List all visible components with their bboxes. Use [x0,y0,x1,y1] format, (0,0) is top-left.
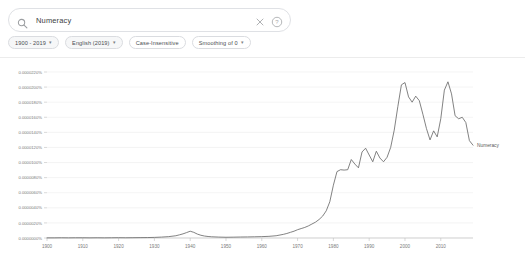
chevron-down-icon: ▾ [49,40,52,45]
smoothing-chip-label: Smoothing of 0 [199,40,238,46]
case-insensitive-chip-label: Case-Insensitive [136,40,179,46]
y-tick-label: 0.0000080% [18,175,42,180]
date-range-chip-label: 1900 - 2019 [15,40,46,46]
smoothing-chip[interactable]: Smoothing of 0 ▾ [192,36,251,49]
y-tick-label: 0.0000180% [18,100,42,105]
series-line-numeracy[interactable] [47,82,473,238]
y-tick-label: 0.0000160% [18,115,42,120]
y-tick-label: 0.0000220% [18,70,42,75]
y-axis-tick-labels: 0.0000000%0.0000020%0.0000040%0.0000060%… [18,70,42,241]
y-tick-label: 0.0000000% [18,236,42,241]
svg-text:?: ? [275,19,279,25]
case-insensitive-chip[interactable]: Case-Insensitive [129,36,186,49]
y-tick-label: 0.0000040% [18,205,42,210]
help-circle-icon[interactable]: ? [271,14,283,26]
controls-divider [0,57,525,58]
y-tick-label: 0.0000060% [18,190,42,195]
x-tick-label: 1910 [78,244,89,249]
chevron-down-icon: ▾ [241,40,244,45]
date-range-chip[interactable]: 1900 - 2019 ▾ [8,36,59,49]
close-icon[interactable] [254,14,266,26]
x-tick-label: 1950 [221,244,232,249]
x-tick-label: 2000 [400,244,411,249]
y-tick-label: 0.0000020% [18,221,42,226]
search-bar[interactable]: Numeracy ? [8,8,291,32]
y-tick-label: 0.0000200% [18,85,42,90]
x-tick-label: 1930 [149,244,160,249]
x-tick-label: 1940 [185,244,196,249]
chevron-down-icon: ▾ [113,40,116,45]
x-tick-label: 1970 [292,244,303,249]
series-label-numeracy[interactable]: Numeracy [477,143,499,148]
x-tick-label: 1960 [257,244,268,249]
x-tick-label: 1980 [328,244,339,249]
chip-toolbar: 1900 - 2019 ▾ English (2019) ▾ Case-Inse… [8,36,251,49]
x-axis-tick-labels: 1900191019201930194019501960197019801990… [42,244,446,249]
x-tick-label: 2010 [436,244,447,249]
x-tick-label: 1900 [42,244,53,249]
search-input[interactable]: Numeracy [36,16,249,25]
search-icon [17,15,28,26]
corpus-chip[interactable]: English (2019) ▾ [65,36,123,49]
y-tick-label: 0.0000100% [18,160,42,165]
chart-canvas[interactable]: 0.0000000%0.0000020%0.0000040%0.0000060%… [0,60,525,257]
corpus-chip-label: English (2019) [72,40,109,46]
x-tick-label: 1990 [364,244,375,249]
y-tick-label: 0.0000140% [18,130,42,135]
x-tick-label: 1920 [113,244,124,249]
y-tick-label: 0.0000120% [18,145,42,150]
ngram-chart[interactable]: 0.0000000%0.0000020%0.0000040%0.0000060%… [0,60,525,257]
